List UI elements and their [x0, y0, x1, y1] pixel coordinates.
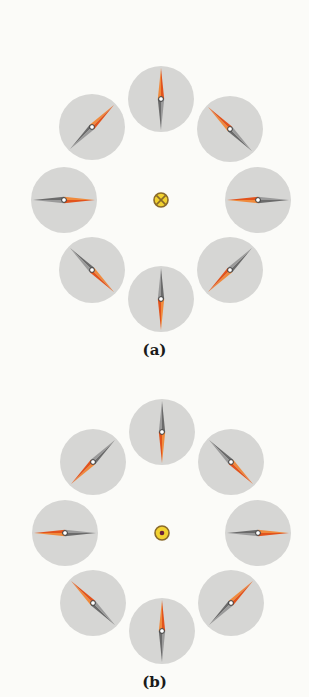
pivot-icon — [160, 430, 165, 435]
pivot-icon — [160, 629, 165, 634]
compass-b-5 — [60, 570, 126, 636]
current-out-of-page-icon — [155, 526, 169, 540]
compass-b-4 — [129, 598, 195, 664]
panel-b: (b) — [0, 0, 309, 697]
pivot-icon — [63, 531, 68, 536]
compass-b-3 — [198, 570, 264, 636]
compass-b-1 — [198, 429, 264, 495]
panel-label-b: (b) — [0, 673, 309, 691]
pivot-icon — [229, 601, 234, 606]
compass-b-2 — [225, 500, 291, 566]
compass-b-6 — [32, 500, 98, 566]
compass-b-7 — [60, 429, 126, 495]
pivot-icon — [256, 531, 261, 536]
compass-diagram-b — [0, 0, 309, 697]
pivot-icon — [91, 460, 96, 465]
pivot-icon — [91, 601, 96, 606]
pivot-icon — [229, 460, 234, 465]
compass-b-0 — [129, 399, 195, 465]
